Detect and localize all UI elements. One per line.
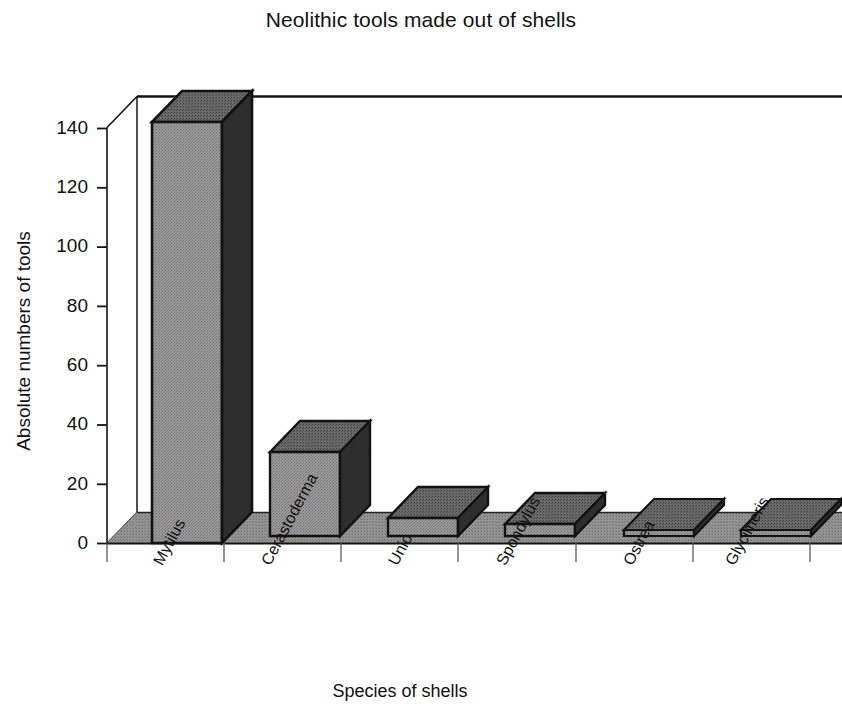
y-tick-label-40: 40 — [32, 414, 88, 433]
y-axis-ticks — [97, 129, 107, 544]
y-tick-label-60: 60 — [32, 355, 88, 374]
y-tick-label-140: 140 — [32, 118, 88, 137]
y-tick-label-0: 0 — [32, 533, 88, 552]
chart-container: Neolithic tools made out of shells Absol… — [0, 0, 842, 717]
y-tick-label-100: 100 — [32, 236, 88, 255]
plot-area — [0, 0, 842, 717]
y-tick-label-20: 20 — [32, 474, 88, 493]
bar-mytilus[interactable] — [152, 91, 252, 543]
plot-left-wall — [107, 97, 137, 544]
y-tick-label-80: 80 — [32, 296, 88, 315]
x-axis-ticks — [107, 543, 810, 562]
y-tick-label-120: 120 — [32, 177, 88, 196]
